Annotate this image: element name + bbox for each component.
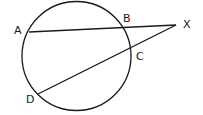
label-c: C: [136, 50, 144, 63]
secant-ax: [29, 25, 176, 32]
label-b: B: [123, 12, 131, 25]
label-x: X: [183, 18, 191, 31]
secant-dx: [38, 25, 176, 94]
secant-diagram: A B C D X: [0, 0, 203, 115]
label-a: A: [14, 24, 22, 37]
label-d: D: [26, 93, 34, 106]
